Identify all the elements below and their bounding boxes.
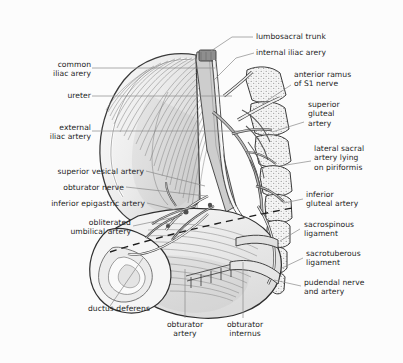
label-obturator-internus: obturator internus: [212, 320, 278, 339]
vessel-node: [166, 224, 170, 228]
label-obturator-nerve: obturator nerve: [20, 183, 124, 192]
label-lumbosacral-trunk: lumbosacral trunk: [256, 32, 386, 41]
label-anterior-ramus-s1: anterior ramus of S1 nerve: [294, 70, 398, 89]
label-common-iliac-artery: common iliac arery: [6, 60, 91, 79]
label-ureter: ureter: [6, 91, 91, 100]
label-internal-iliac-artery: internal iliac arery: [256, 48, 386, 57]
label-pudendal-nerve-and-artery: pudendal nerve and artery: [304, 278, 402, 297]
anatomical-figure: common iliac arery ureter external iliac…: [0, 0, 403, 363]
label-lateral-sacral-artery: lateral sacral artery lying on piriformi…: [314, 144, 402, 172]
label-superior-vesical-artery: superior vesical artery: [20, 167, 144, 176]
label-sacrotuberous-ligament: sacrotuberous ligament: [306, 249, 402, 268]
label-obturator-artery: obturator artery: [152, 320, 218, 339]
label-ductus-deferens: ductus deferens: [88, 304, 198, 313]
label-superior-gluteal-artery: superior gluteal artery: [308, 100, 398, 128]
label-obliterated-umbilical-artery: obliterated umbilical artery: [24, 218, 131, 237]
label-sacrospinous-ligament: sacrospinous ligament: [304, 220, 396, 239]
label-external-iliac-artery: external iliac artery: [6, 123, 91, 142]
label-inferior-epigastric-artery: inferior epigastric artery: [8, 199, 145, 208]
vessel-node: [208, 203, 212, 207]
label-inferior-gluteal-artery: inferior gluteal artery: [306, 190, 398, 209]
vessel-node: [184, 210, 189, 215]
vessel-cut-end: [199, 50, 216, 61]
leader-lumbosacral-trunk: [211, 37, 253, 51]
